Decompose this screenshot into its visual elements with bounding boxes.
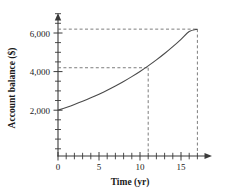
y-tick-label-2000: 2,000 xyxy=(30,106,51,116)
x-tick-label-0: 0 xyxy=(56,162,61,172)
guide-lines-group xyxy=(58,29,197,153)
y-axis-title: Account balance ($) xyxy=(7,48,18,129)
balance-curve xyxy=(58,29,197,110)
account-balance-chart: 6,000 4,000 2,000 0 5 10 15 Time (yr) Ac… xyxy=(0,0,226,192)
x-tick-labels: 0 5 10 15 xyxy=(56,162,186,172)
x-tick-label-10: 10 xyxy=(136,162,146,172)
y-tick-labels: 6,000 4,000 2,000 xyxy=(30,29,51,116)
axes-group xyxy=(55,13,212,159)
chart-canvas: 6,000 4,000 2,000 0 5 10 15 Time (yr) Ac… xyxy=(0,0,226,192)
x-tick-label-15: 15 xyxy=(177,162,187,172)
y-tick-label-4000: 4,000 xyxy=(30,67,51,77)
x-tick-label-5: 5 xyxy=(97,162,102,172)
y-tick-label-6000: 6,000 xyxy=(30,29,51,39)
x-axis-arrowhead xyxy=(205,153,213,159)
x-axis-title: Time (yr) xyxy=(111,177,150,188)
